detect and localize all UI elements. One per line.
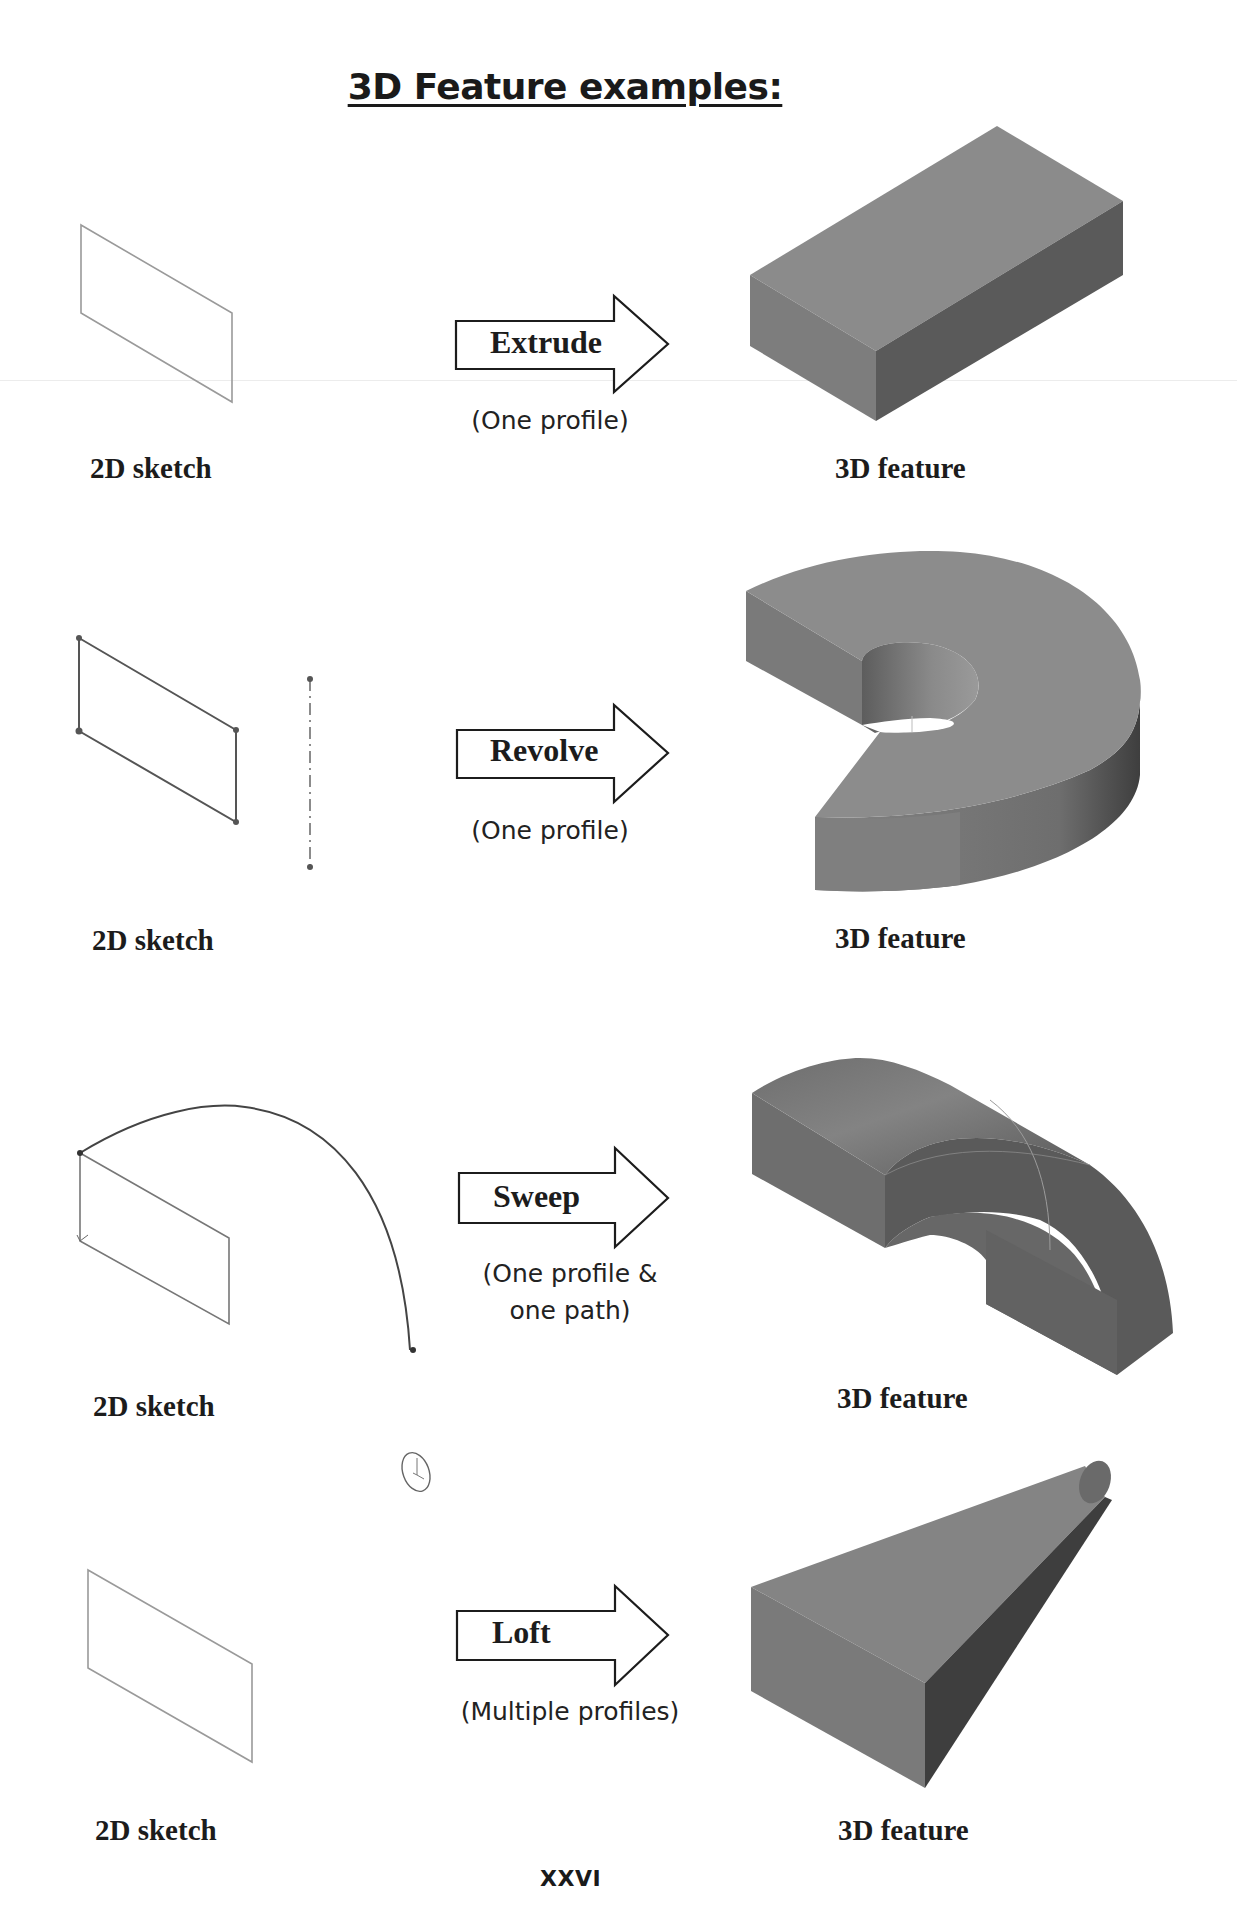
lofted-solid-icon <box>0 0 1237 1908</box>
page-number: XXVI <box>540 1866 601 1891</box>
row-loft-right-label: 3D feature <box>838 1814 969 1847</box>
